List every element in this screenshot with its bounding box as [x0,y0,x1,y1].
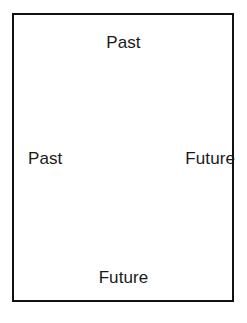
label-future-bottom: Future [0,268,247,287]
label-future-right: Future [185,149,235,168]
label-past-left: Past [28,149,62,168]
label-past-top: Past [0,33,247,52]
diagram-canvas: Past Past Future Future [0,0,247,323]
